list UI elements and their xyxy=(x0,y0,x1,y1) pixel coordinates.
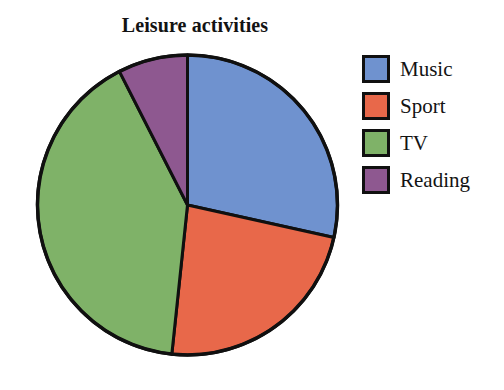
legend-item-music[interactable]: Music xyxy=(362,54,504,84)
chart-legend: Music Sport TV Reading xyxy=(362,54,504,202)
legend-label-reading: Reading xyxy=(400,170,470,191)
legend-item-reading[interactable]: Reading xyxy=(362,165,504,195)
legend-swatch-sport-icon xyxy=(362,92,390,120)
legend-swatch-reading-icon xyxy=(362,166,390,194)
legend-label-sport: Sport xyxy=(400,96,446,117)
pie-chart-svg xyxy=(32,50,344,362)
legend-swatch-music-icon xyxy=(362,55,390,83)
legend-item-tv[interactable]: TV xyxy=(362,128,504,158)
legend-label-tv: TV xyxy=(400,133,428,154)
legend-item-sport[interactable]: Sport xyxy=(362,91,504,121)
pie-chart-plot-area xyxy=(32,50,344,362)
pie-chart-figure: Leisure activities Music Sport TV Readin… xyxy=(0,0,504,390)
legend-label-music: Music xyxy=(400,59,453,80)
legend-swatch-tv-icon xyxy=(362,129,390,157)
chart-title: Leisure activities xyxy=(60,14,330,37)
pie-slice-group xyxy=(37,55,337,355)
